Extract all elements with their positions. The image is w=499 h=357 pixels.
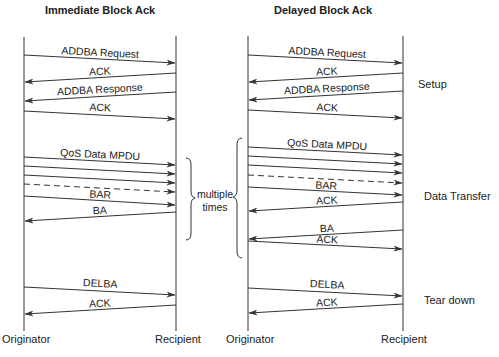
- svg-text:ACK: ACK: [316, 232, 338, 245]
- message-addba-response: ADDBA Response: [249, 80, 403, 100]
- message-qos-data-mpdu: [24, 175, 175, 183]
- message-ack: ACK: [249, 64, 403, 82]
- svg-text:ACK: ACK: [89, 100, 111, 113]
- message-qos-data-mpdu: [248, 165, 402, 173]
- message-delba: DELBA: [24, 276, 175, 295]
- recipient-label: Recipient: [155, 333, 201, 345]
- message-ack: ACK: [249, 295, 403, 313]
- svg-text:ACK: ACK: [89, 64, 111, 77]
- svg-text:ACK: ACK: [316, 193, 338, 206]
- phase-data-transfer: Data Transfer: [424, 190, 491, 202]
- message-addba-request: ADDBA Request: [24, 44, 175, 63]
- repeat-brace: [186, 158, 195, 240]
- message-addba-response: ADDBA Response: [25, 81, 176, 101]
- times-label: times: [202, 201, 227, 213]
- svg-text:DELBA: DELBA: [83, 276, 118, 290]
- immediate-title: Immediate Block Ack: [45, 4, 156, 16]
- svg-text:BA: BA: [92, 204, 107, 217]
- svg-text:BAR: BAR: [89, 187, 112, 200]
- svg-text:DELBA: DELBA: [310, 277, 345, 291]
- repeat-brace: [233, 138, 242, 258]
- phase-tear-down: Tear down: [424, 294, 475, 306]
- message-delba: DELBA: [248, 277, 402, 296]
- message-qos-data-mpdu: QoS Data MPDU: [248, 136, 402, 155]
- immediate-block-ack-diagram: Immediate Block Ack ADDBA Request ACK AD…: [2, 4, 233, 345]
- message-qos-data-mpdu: [248, 156, 402, 164]
- message-ack: ACK: [248, 232, 402, 249]
- phase-setup: Setup: [418, 78, 447, 90]
- message-ack: ACK: [25, 64, 176, 82]
- message-ack: ACK: [24, 100, 175, 119]
- originator-label: Originator: [2, 333, 51, 345]
- recipient-label: Recipient: [381, 333, 427, 345]
- originator-label: Originator: [226, 333, 275, 345]
- message-ack: ACK: [249, 193, 403, 211]
- message-addba-request: ADDBA Request: [248, 44, 402, 63]
- message-ba: BA: [25, 204, 176, 221]
- svg-text:ACK: ACK: [89, 296, 111, 309]
- multiple-label: multiple: [197, 188, 233, 200]
- delayed-block-ack-diagram: Delayed Block Ack ADDBA Request ACK ADDB…: [226, 4, 427, 345]
- delayed-title: Delayed Block Ack: [274, 4, 373, 16]
- message-bar: BAR: [248, 178, 402, 195]
- message-bar: BAR: [24, 187, 175, 205]
- message-ack: ACK: [248, 100, 402, 118]
- message-qos-data-mpdu: [24, 166, 175, 174]
- svg-text:ACK: ACK: [316, 100, 338, 113]
- message-ack: ACK: [25, 296, 176, 314]
- svg-text:ACK: ACK: [316, 64, 338, 77]
- message-qos-data-mpdu: QoS Data MPDU: [24, 146, 175, 165]
- svg-text:BAR: BAR: [315, 178, 338, 191]
- svg-text:ACK: ACK: [316, 295, 338, 308]
